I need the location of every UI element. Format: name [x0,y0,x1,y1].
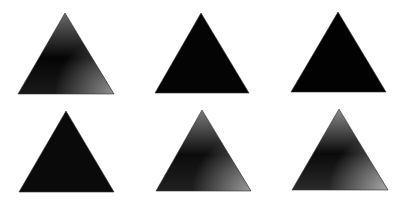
panel-1 [18,13,114,94]
triangle-highlight [18,13,114,94]
triangle-shape [19,111,114,192]
panel-5 [156,110,251,191]
triangle-highlight [156,110,251,191]
panel-4 [19,111,114,192]
triangle-grid-figure [0,0,406,203]
triangle-shape [291,12,386,92]
panel-2 [155,13,249,93]
triangle-highlight [292,109,388,190]
panel-group [18,12,388,192]
panel-6 [292,109,388,190]
triangle-shape [155,13,249,93]
panel-3 [291,12,386,92]
